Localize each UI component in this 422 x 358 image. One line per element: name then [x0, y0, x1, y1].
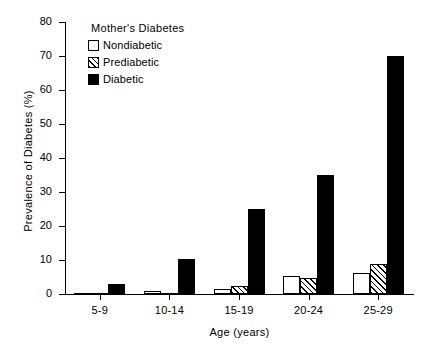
- bar-20-24-nondiabetic: [283, 276, 300, 294]
- x-axis-tick: [309, 295, 310, 300]
- bar-10-14-diabetic: [178, 259, 195, 294]
- y-axis-tick: [59, 260, 65, 261]
- x-axis-tick-label: 15-19: [209, 304, 269, 316]
- bar-20-24-diabetic: [317, 175, 334, 294]
- x-axis-tick: [169, 295, 170, 300]
- legend-swatch-icon: [88, 40, 99, 51]
- x-axis-tick-label: 20-24: [279, 304, 339, 316]
- y-axis-tick-label: 70: [0, 50, 52, 61]
- bar-5-9-diabetic: [108, 284, 125, 294]
- legend-swatch-icon: [88, 74, 99, 85]
- y-axis-tick-label: 30: [0, 186, 52, 197]
- legend-item-prediabetic: Prediabetic: [88, 55, 228, 69]
- legend-item-nondiabetic: Nondiabetic: [88, 38, 228, 52]
- legend-item-label: Nondiabetic: [103, 39, 162, 51]
- x-axis-tick-label: 25-29: [348, 304, 408, 316]
- bar-15-19-diabetic: [248, 209, 265, 294]
- bar-10-14-nondiabetic: [144, 291, 161, 294]
- y-axis-tick-label: 20: [0, 220, 52, 231]
- y-axis-line: [65, 22, 66, 295]
- x-axis-title: Age (years): [65, 326, 414, 338]
- y-axis-tick-label: 80: [0, 16, 52, 27]
- y-axis-tick-label: 50: [0, 118, 52, 129]
- legend-items: NondiabeticPrediabeticDiabetic: [88, 38, 228, 86]
- legend: Mother's Diabetes NondiabeticPrediabetic…: [88, 22, 228, 89]
- y-axis-tick-label: 10: [0, 254, 52, 265]
- x-axis-tick: [378, 295, 379, 300]
- y-axis-tick: [59, 56, 65, 57]
- y-axis-tick: [59, 158, 65, 159]
- y-axis-tick: [59, 226, 65, 227]
- legend-item-label: Prediabetic: [103, 56, 159, 68]
- legend-swatch-icon: [88, 57, 99, 68]
- bar-5-9-nondiabetic: [74, 293, 91, 295]
- legend-item-label: Diabetic: [103, 73, 144, 85]
- y-axis-tick-label: 60: [0, 84, 52, 95]
- x-axis-tick-label: 10-14: [139, 304, 199, 316]
- x-axis-tick: [100, 295, 101, 300]
- bar-20-24-prediabetic: [300, 278, 317, 294]
- y-axis-tick: [59, 90, 65, 91]
- y-axis-tick-label: 0: [0, 288, 52, 299]
- y-axis-tick: [59, 22, 65, 23]
- bar-15-19-prediabetic: [231, 286, 248, 294]
- bar-25-29-nondiabetic: [353, 273, 370, 294]
- bar-25-29-prediabetic: [370, 264, 387, 294]
- legend-item-diabetic: Diabetic: [88, 72, 228, 86]
- bar-15-19-nondiabetic: [214, 289, 231, 294]
- bar-25-29-diabetic: [387, 56, 404, 294]
- y-axis-tick: [59, 294, 65, 295]
- bar-chart-figure: Prevalence of Diabetes (%) 0102030405060…: [0, 0, 422, 358]
- x-axis-tick: [239, 295, 240, 300]
- legend-title: Mother's Diabetes: [91, 22, 228, 34]
- x-axis-tick-label: 5-9: [70, 304, 130, 316]
- y-axis-tick-label: 40: [0, 152, 52, 163]
- y-axis-tick: [59, 124, 65, 125]
- y-axis-tick: [59, 192, 65, 193]
